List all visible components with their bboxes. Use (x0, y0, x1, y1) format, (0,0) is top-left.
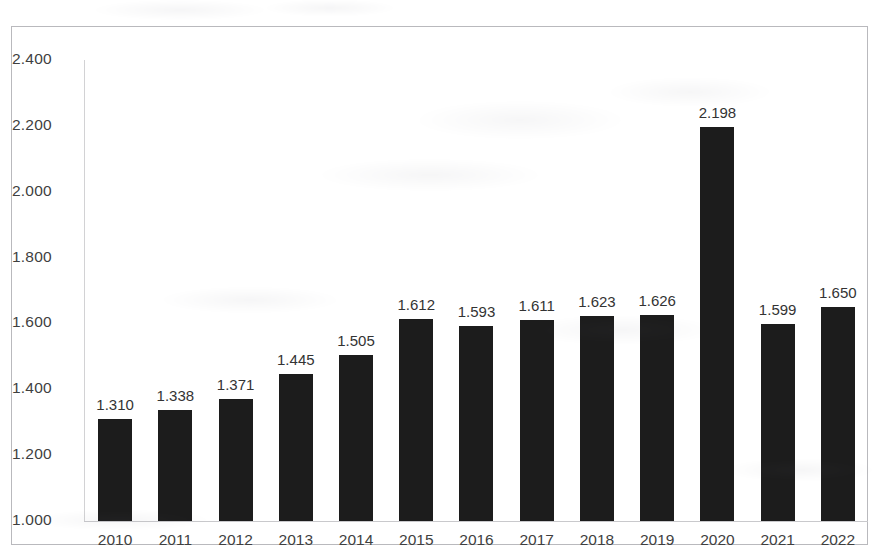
y-axis-tick-label: 1.600 (12, 313, 74, 331)
bar-group: 1.611 (507, 60, 567, 521)
bar-group: 1.371 (205, 60, 265, 521)
bar-group: 1.626 (627, 60, 687, 521)
bar-value-label: 1.626 (638, 292, 676, 309)
bar-group: 1.612 (386, 60, 446, 521)
bar[interactable] (520, 320, 554, 521)
y-axis-tick-label: 2.400 (12, 50, 74, 68)
x-axis-tick-label: 2011 (159, 531, 192, 549)
bar-group: 1.445 (266, 60, 326, 521)
bar-group: 1.599 (748, 60, 808, 521)
x-axis-tick-label: 2012 (218, 531, 252, 549)
bar[interactable] (339, 355, 373, 521)
x-axis-tick-label: 2016 (459, 531, 493, 549)
bar[interactable] (399, 319, 433, 521)
bar-value-label: 1.310 (96, 396, 134, 413)
bar-value-label: 1.599 (759, 301, 797, 318)
bar-group: 1.650 (808, 60, 868, 521)
bar-value-label: 2.198 (699, 104, 737, 121)
x-axis-tick-label: 2013 (279, 531, 313, 549)
x-axis-tick-label: 2019 (640, 531, 674, 549)
bar[interactable] (219, 399, 253, 521)
x-axis-tick-label: 2014 (339, 531, 373, 549)
bar[interactable] (459, 326, 493, 521)
bar-value-label: 1.612 (397, 296, 435, 313)
bar[interactable] (158, 410, 192, 521)
y-axis-tick-label: 2.000 (12, 182, 74, 200)
bar[interactable] (279, 374, 313, 521)
bar-group: 1.338 (145, 60, 205, 521)
y-axis-tick-label: 1.800 (12, 248, 74, 266)
plot-area: 1.3101.3381.3711.4451.5051.6121.5931.611… (85, 60, 868, 521)
bar-group: 2.198 (687, 60, 747, 521)
bar-group: 1.593 (446, 60, 506, 521)
y-axis-tick-label: 1.400 (12, 379, 74, 397)
x-axis-tick-label: 2022 (821, 531, 855, 549)
bar-value-label: 1.593 (458, 303, 496, 320)
bar[interactable] (580, 316, 614, 521)
bar[interactable] (98, 419, 132, 521)
bar[interactable] (700, 127, 734, 521)
y-axis-tick-label: 1.000 (12, 511, 74, 529)
bar-value-label: 1.623 (578, 293, 616, 310)
bar-value-label: 1.371 (217, 376, 255, 393)
bar[interactable] (821, 307, 855, 521)
x-axis-tick-label: 2021 (760, 531, 794, 549)
bar-value-label: 1.338 (157, 387, 195, 404)
y-axis-tick-label: 1.200 (12, 445, 74, 463)
bar-group: 1.505 (326, 60, 386, 521)
x-axis-tick-label: 2017 (519, 531, 553, 549)
bar-value-label: 1.505 (337, 332, 375, 349)
bar[interactable] (761, 324, 795, 521)
x-axis-tick-label: 2018 (580, 531, 614, 549)
y-axis-tick-label: 2.200 (12, 116, 74, 134)
bar-group: 1.623 (567, 60, 627, 521)
x-axis-tick-label: 2020 (700, 531, 734, 549)
x-axis-baseline (84, 521, 868, 522)
x-axis-tick-label: 2010 (98, 531, 132, 549)
bar[interactable] (640, 315, 674, 521)
bar-value-label: 1.445 (277, 351, 315, 368)
chart-frame: 2.4002.2002.0001.8001.6001.4001.2001.000… (11, 26, 868, 545)
bar-value-label: 1.611 (519, 297, 555, 314)
bar-value-label: 1.650 (819, 284, 857, 301)
x-axis-tick-label: 2015 (399, 531, 433, 549)
bar-group: 1.310 (85, 60, 145, 521)
